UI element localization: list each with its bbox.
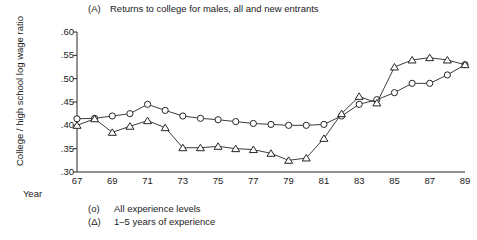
data-point-circle <box>356 101 362 107</box>
data-point-circle <box>444 72 450 78</box>
legend-label: 1–5 years of experience <box>114 216 215 227</box>
data-point-circle <box>109 113 115 119</box>
data-point-triangle <box>390 64 398 70</box>
data-point-circle <box>144 101 150 107</box>
legend-label: All experience levels <box>114 203 201 214</box>
data-point-circle <box>180 113 186 119</box>
data-point-triangle <box>355 93 363 99</box>
data-point-circle <box>233 119 239 125</box>
data-point-circle <box>268 121 274 127</box>
data-point-circle <box>286 122 292 128</box>
legend-symbol-icon: (Δ) <box>88 216 114 227</box>
data-point-circle <box>250 120 256 126</box>
legend-item: (Δ)1–5 years of experience <box>88 216 215 227</box>
series-line <box>77 58 465 161</box>
data-point-triangle <box>144 117 152 123</box>
legend-symbol-icon: (o) <box>88 203 114 214</box>
data-point-circle <box>409 80 415 86</box>
data-point-triangle <box>426 54 434 60</box>
data-point-circle <box>427 80 433 86</box>
data-point-triangle <box>161 124 169 130</box>
data-point-circle <box>321 121 327 127</box>
series-triangle <box>73 54 469 163</box>
data-point-triangle <box>214 143 222 149</box>
series-line <box>77 65 465 126</box>
legend-item: (o)All experience levels <box>88 203 215 214</box>
series-circle <box>74 62 468 129</box>
data-point-circle <box>162 107 168 113</box>
plot-axes-and-series <box>0 0 477 240</box>
data-point-triangle <box>126 123 134 129</box>
data-point-circle <box>197 115 203 121</box>
data-point-circle <box>127 111 133 117</box>
data-point-circle <box>303 122 309 128</box>
data-point-triangle <box>320 135 328 141</box>
data-point-circle <box>391 90 397 96</box>
figure-panel-a: (A)Returns to college for males, all and… <box>0 0 477 240</box>
data-point-circle <box>215 117 221 123</box>
legend: (o)All experience levels(Δ)1–5 years of … <box>88 203 215 229</box>
